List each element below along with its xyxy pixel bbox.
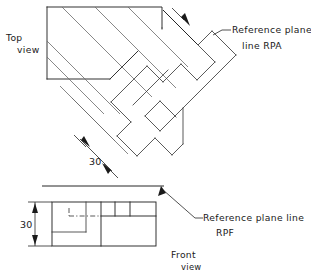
top-view-projection-lines: [47, 7, 188, 154]
reference-plane-line-rpa: [163, 10, 197, 44]
rpf-text-line1: Reference plane line: [203, 212, 304, 223]
rpf-annotation: Reference plane line RPF: [203, 212, 304, 238]
dimension-arrow-icon: [32, 203, 38, 213]
top-view-group: 30 Top view Reference plane line RPA: [5, 7, 311, 178]
drawing-sheet: 30 Top view Reference plane line RPA: [0, 0, 311, 280]
front-view-dimension-value: 30: [20, 219, 33, 230]
rpf-leader: [158, 186, 203, 218]
front-view-outline: [52, 202, 156, 246]
top-view-label-line1: Top: [5, 32, 23, 43]
front-view-label: Front view: [171, 249, 202, 272]
technical-drawing-canvas: 30 Top view Reference plane line RPA: [0, 0, 311, 280]
arrow-head-icon: [181, 13, 190, 26]
front-view-internal-lines: [52, 202, 156, 246]
dimension-arrow-icon: [32, 235, 38, 245]
rpa-text-line2: line RPA: [242, 40, 282, 51]
top-view-rotated-body: [111, 13, 236, 156]
rpf-text-line2: RPF: [216, 227, 234, 238]
top-view-dimension-value: 30: [89, 156, 102, 167]
rpa-leader: [172, 8, 231, 35]
rpa-text-line1: Reference plane: [232, 24, 311, 35]
top-view-label-line2: view: [17, 44, 40, 55]
top-view-label: Top view: [5, 32, 40, 55]
top-view-dimension-30: 30: [74, 135, 118, 178]
front-view-label-line2: view: [181, 262, 202, 272]
front-view-group: 30 Reference plane line RPF Front view: [20, 186, 304, 272]
front-view-hidden-line: [69, 208, 101, 216]
rpa-annotation: Reference plane line RPA: [232, 24, 311, 51]
front-view-label-line1: Front: [171, 249, 196, 260]
front-view-dimension-30: 30: [20, 202, 52, 246]
